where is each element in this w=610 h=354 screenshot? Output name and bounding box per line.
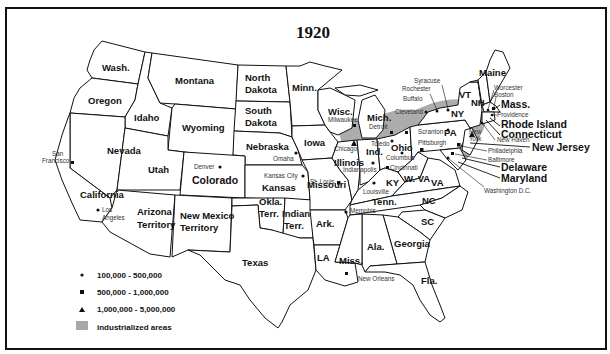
city-boston: Boston: [494, 91, 514, 98]
label-nh: NH: [471, 97, 485, 108]
label-miss: Miss.: [339, 255, 363, 266]
city-milwaukee: Milwaukee: [328, 116, 358, 123]
us-map-1920: 1920: [0, 0, 610, 354]
city-san-francisco-2: Francisco: [42, 157, 70, 164]
label-nc: NC: [422, 195, 436, 206]
city-marker-detroit: [390, 131, 393, 134]
city-syracuse: Syracuse: [414, 77, 441, 85]
label-montana: Montana: [175, 75, 215, 86]
label-la: LA: [317, 252, 330, 263]
label-maryland: Maryland: [501, 172, 547, 184]
label-wash: Wash.: [102, 62, 130, 73]
label-tenn: Tenn.: [372, 196, 397, 207]
city-washington-dc: Washington D.C.: [484, 187, 532, 195]
label-colorado: Colorado: [192, 174, 238, 186]
label-pa: PA: [444, 127, 457, 138]
label-ind: Ind.: [366, 146, 383, 157]
city-marker-new-haven: [481, 122, 484, 125]
legend-circle-icon: [80, 273, 83, 276]
label-mich: Mich.: [367, 112, 391, 123]
label-arizona-1: Arizona: [137, 206, 173, 217]
city-marker-denver: [218, 165, 221, 168]
city-st-louis: St. Louis: [310, 178, 335, 185]
legend: 100,000 - 500,000 500,000 - 1,000,000 1,…: [76, 271, 176, 332]
city-memphis: Memphis: [350, 207, 376, 215]
map-title: 1920: [296, 23, 330, 42]
city-marker-omaha: [294, 151, 297, 154]
label-sc: SC: [421, 216, 434, 227]
label-south-dakota-1: South: [245, 105, 272, 116]
city-marker-new-orleans: [345, 272, 348, 275]
city-toledo: Toledo: [371, 140, 390, 147]
label-ny: NY: [451, 108, 465, 119]
label-fla: Fla.: [421, 275, 437, 286]
label-vt: VT: [459, 89, 471, 100]
city-marker-boston: [492, 107, 495, 110]
city-marker-san-francisco: [71, 161, 74, 164]
city-marker-cleveland: [405, 131, 408, 134]
city-marker-indianapolis: [371, 161, 374, 164]
city-marker-philadelphia: [457, 143, 461, 147]
label-ohio: Ohio: [391, 142, 413, 153]
city-new-york-2: York: [469, 135, 482, 142]
city-san-francisco-1: San: [52, 150, 64, 157]
city-buffalo: Buffalo: [403, 95, 423, 102]
legend-square-icon: [80, 290, 84, 294]
label-ala: Ala.: [367, 241, 384, 252]
state-florida: [365, 262, 445, 322]
city-marker-los-angeles: [96, 208, 99, 211]
city-pittsburgh: Pittsburgh: [418, 139, 447, 147]
label-north-dakota-2: Dakota: [245, 84, 277, 95]
label-nebraska: Nebraska: [246, 141, 289, 152]
city-marker-cincinnati: [386, 166, 389, 169]
legend-item-2: 500,000 - 1,000,000: [97, 288, 169, 297]
legend-triangle-icon: [79, 307, 85, 312]
label-north-dakota-1: North: [245, 72, 271, 83]
label-ky: KY: [386, 177, 400, 188]
label-okla-1: Okla.: [259, 196, 282, 207]
city-louisville: Louisville: [363, 188, 389, 195]
city-indianapolis: Indianapolis: [343, 166, 377, 174]
label-idaho: Idaho: [134, 112, 160, 123]
label-iowa: Iowa: [304, 137, 326, 148]
city-new-haven: New Haven: [497, 136, 530, 143]
label-kansas: Kansas: [262, 182, 296, 193]
label-south-dakota-2: Dakota: [245, 117, 277, 128]
label-georgia: Georgia: [394, 238, 431, 249]
city-omaha: Omaha: [273, 155, 294, 162]
label-minn: Minn.: [292, 82, 317, 93]
city-rochester: Rochester: [402, 85, 431, 92]
label-california: California: [80, 189, 125, 200]
legend-gray-box-icon: [76, 321, 88, 330]
label-utah: Utah: [148, 164, 169, 175]
label-new-mexico-2: Territory: [180, 222, 219, 233]
city-marker-toledo: [391, 140, 394, 143]
label-wyoming: Wyoming: [182, 122, 225, 133]
label-texas: Texas: [242, 257, 268, 268]
label-arizona-2: Territory: [137, 219, 176, 230]
label-nevada: Nevada: [107, 145, 142, 156]
label-new-mexico-1: New Mexico: [180, 210, 235, 221]
city-marker-kansas-city: [301, 174, 304, 177]
city-columbus: Columbus: [386, 154, 414, 161]
city-cleveland: Cleveland: [395, 108, 424, 115]
city-marker-louisville: [372, 181, 375, 184]
city-baltimore: Baltimore: [488, 156, 515, 163]
label-wva: W. VA: [404, 173, 430, 184]
label-oregon: Oregon: [88, 95, 122, 106]
label-ark: Ark.: [316, 218, 334, 229]
city-marker-worcester: [487, 109, 490, 112]
city-marker-pittsburgh: [420, 148, 424, 152]
city-providence: Providence: [497, 111, 529, 118]
city-philadelphia: Philadelphia: [488, 147, 523, 155]
city-marker-st-louis: [337, 181, 341, 185]
city-denver: Denver: [194, 163, 214, 170]
label-mass: Mass.: [501, 98, 530, 110]
label-okla-2: Terr.: [259, 208, 279, 219]
city-marker-providence: [491, 114, 494, 117]
city-marker-scranton: [447, 129, 450, 132]
city-new-york-1: New: [469, 128, 482, 135]
city-marker-buffalo: [425, 111, 428, 114]
city-worcester: Worcester: [494, 84, 523, 91]
legend-item-1: 100,000 - 500,000: [97, 271, 162, 280]
